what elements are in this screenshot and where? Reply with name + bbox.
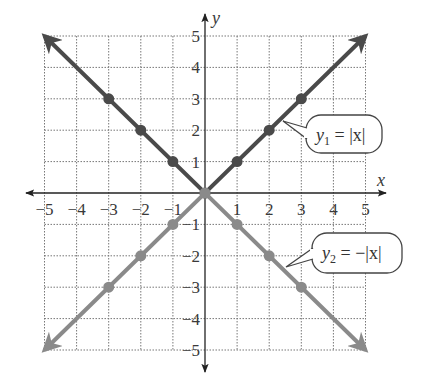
- data-point: [296, 282, 307, 293]
- data-point: [264, 125, 275, 136]
- callout-y2-label: y2 = −|x|: [320, 243, 382, 266]
- y-tick-label: −1: [182, 215, 200, 234]
- data-point: [200, 188, 211, 199]
- callout-y1-label: y1 = |x|: [314, 125, 365, 148]
- y-tick-label: −3: [182, 278, 200, 297]
- y-tick-label: 2: [192, 121, 201, 140]
- data-point: [296, 93, 307, 104]
- x-axis-label: x: [376, 170, 385, 190]
- y-tick-label: 5: [192, 27, 201, 46]
- callout-y1: y1 = |x|: [268, 115, 382, 153]
- x-tick-label: −3: [100, 200, 118, 219]
- abs-value-graph: x y −5−4−3−2−112345−5−4−3−2−112345 y1 = …: [0, 0, 442, 381]
- x-tick-label: 1: [233, 200, 242, 219]
- y-tick-label: −4: [182, 310, 201, 329]
- data-point: [232, 156, 243, 167]
- x-tick-label: 3: [297, 200, 306, 219]
- data-point: [103, 93, 114, 104]
- y-tick-label: −2: [182, 247, 200, 266]
- data-point: [167, 219, 178, 230]
- data-point: [103, 282, 114, 293]
- y-tick-label: 3: [192, 90, 201, 109]
- x-tick-label: −4: [68, 200, 87, 219]
- x-tick-label: 5: [361, 200, 370, 219]
- y-tick-label: −5: [182, 341, 200, 360]
- y-tick-label: 4: [192, 58, 201, 77]
- y-axis-label: y: [210, 8, 220, 28]
- data-point: [135, 250, 146, 261]
- y-tick-label: 1: [192, 153, 201, 172]
- data-point: [264, 250, 275, 261]
- x-tick-label: −2: [132, 200, 150, 219]
- x-tick-label: 2: [265, 200, 274, 219]
- data-point: [232, 219, 243, 230]
- data-point: [167, 156, 178, 167]
- data-point: [135, 125, 146, 136]
- x-tick-label: −5: [35, 200, 53, 219]
- callout-y2: y2 = −|x|: [286, 233, 402, 273]
- x-tick-label: 4: [329, 200, 338, 219]
